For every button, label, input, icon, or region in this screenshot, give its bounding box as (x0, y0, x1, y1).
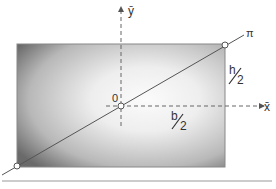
svg-text:b: b (171, 109, 178, 123)
pi-label: π (246, 27, 254, 39)
y-axis-label: ȳ (128, 4, 134, 18)
svg-text:h: h (229, 63, 236, 77)
section-diagram: ȳ x̄ 0 π h 2 b 2 (0, 0, 276, 189)
x-axis-label: x̄ (264, 100, 270, 114)
point-top-right (222, 42, 228, 48)
point-origin (118, 103, 124, 109)
svg-text:2: 2 (237, 73, 244, 87)
origin-label: 0 (112, 92, 118, 104)
half-height-label: h 2 (229, 63, 244, 87)
svg-text:2: 2 (180, 119, 187, 133)
point-bottom-left (14, 163, 20, 169)
